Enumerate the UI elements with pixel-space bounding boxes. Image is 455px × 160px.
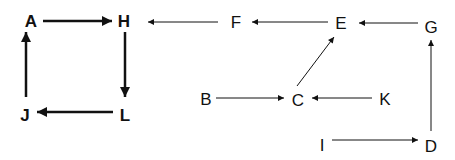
node-I: I [320, 137, 325, 154]
node-B: B [200, 91, 211, 108]
node-K: K [379, 91, 390, 108]
graph-edges [0, 0, 455, 160]
node-L: L [120, 107, 130, 124]
node-G: G [424, 19, 437, 36]
node-H: H [118, 13, 130, 30]
edge-C-E [297, 37, 334, 86]
node-A: A [25, 13, 37, 30]
node-F: F [231, 14, 241, 31]
node-C: C [292, 92, 304, 109]
node-D: D [425, 138, 437, 155]
node-E: E [335, 15, 346, 32]
node-J: J [20, 107, 29, 124]
